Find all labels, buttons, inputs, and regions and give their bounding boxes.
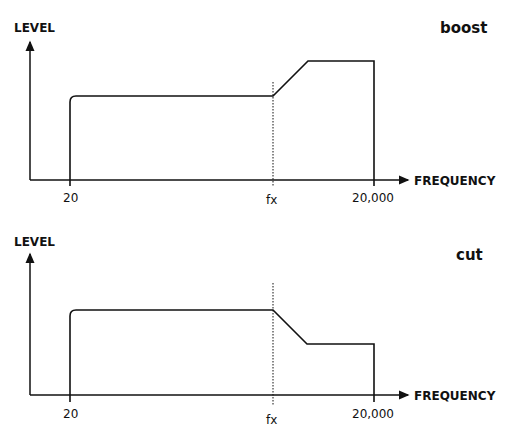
chart-title: cut — [456, 246, 483, 264]
tick-20: 20 — [63, 407, 78, 421]
boost-chart: LEVEL FREQUENCY boost 20 fx 20,000 — [14, 19, 496, 207]
frequency-label: FREQUENCY — [414, 389, 496, 403]
level-label: LEVEL — [14, 21, 55, 35]
level-label: LEVEL — [14, 235, 55, 249]
tick-20: 20 — [63, 191, 78, 205]
tick-20000: 20,000 — [352, 191, 394, 205]
response-curve — [70, 310, 374, 402]
tick-fx: fx — [266, 193, 277, 207]
frequency-label: FREQUENCY — [414, 174, 496, 188]
tick-20000: 20,000 — [352, 407, 394, 421]
cut-chart: LEVEL FREQUENCY cut 20 fx 20,000 — [14, 235, 496, 427]
shelving-eq-diagram: LEVEL FREQUENCY boost 20 fx 20,000 LEVEL… — [0, 0, 506, 436]
chart-title: boost — [440, 19, 487, 37]
response-curve — [70, 61, 374, 186]
tick-fx: fx — [266, 413, 277, 427]
